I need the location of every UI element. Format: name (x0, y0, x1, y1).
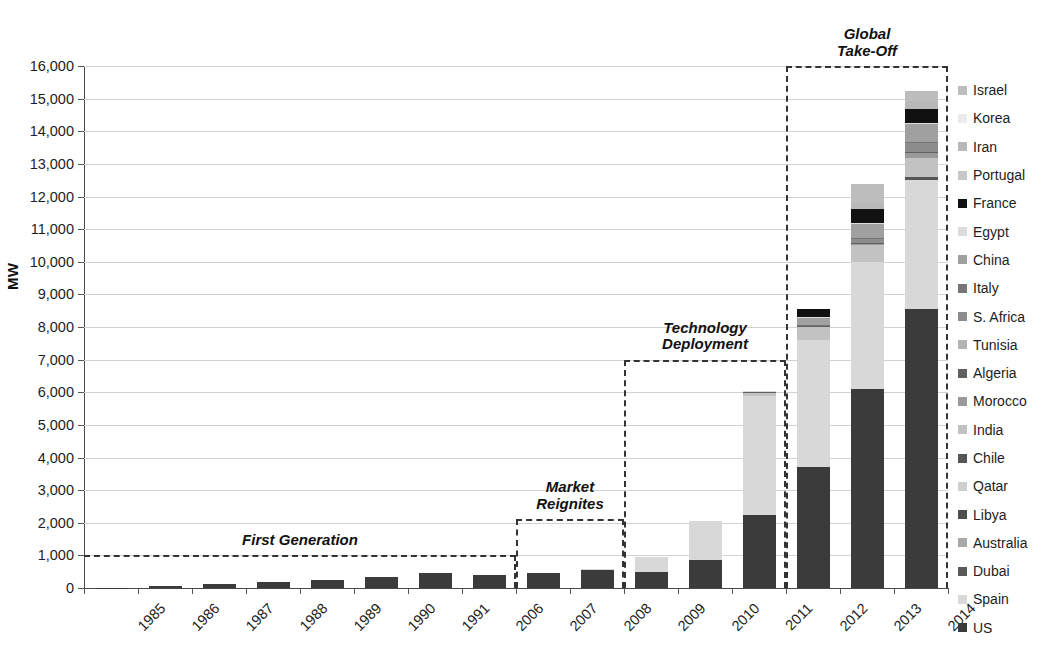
legend-item[interactable]: Australia (958, 529, 1050, 557)
stacked-bar-chart: MW 01,0002,0003,0004,0005,0006,0007,0008… (0, 0, 1050, 645)
bar-group[interactable] (473, 66, 506, 588)
legend-item[interactable]: Morocco (958, 387, 1050, 415)
legend-item[interactable]: Spain (958, 585, 1050, 613)
legend-label: Algeria (973, 366, 1017, 380)
bar-segment[interactable] (797, 318, 830, 326)
bar-segment[interactable] (581, 569, 614, 570)
legend-label: Egypt (973, 225, 1009, 239)
legend-item[interactable]: Italy (958, 274, 1050, 302)
bar-group[interactable] (311, 66, 344, 588)
legend-item[interactable]: Egypt (958, 217, 1050, 245)
legend-label: Australia (973, 536, 1027, 550)
bar-segment[interactable] (797, 309, 830, 317)
legend-swatch-icon (958, 369, 967, 378)
legend-item[interactable]: Libya (958, 500, 1050, 528)
bar-segment[interactable] (905, 123, 938, 124)
phase-label-first-generation: First Generation (84, 532, 516, 549)
bar-segment[interactable] (743, 391, 776, 392)
bar-segment[interactable] (905, 152, 938, 158)
bar-segment[interactable] (905, 109, 938, 123)
legend-item[interactable]: Iran (958, 133, 1050, 161)
legend-item[interactable]: France (958, 189, 1050, 217)
bar-group[interactable] (149, 66, 182, 588)
bar-segment[interactable] (689, 521, 722, 559)
bar-segment[interactable] (851, 238, 884, 239)
bar-segment[interactable] (905, 124, 938, 142)
bar-segment[interactable] (851, 209, 884, 223)
x-tick-mark (732, 588, 733, 594)
bar-segment[interactable] (851, 223, 884, 224)
legend-item[interactable]: Korea (958, 104, 1050, 132)
bar-segment[interactable] (797, 467, 830, 588)
legend-item[interactable]: Israel (958, 76, 1050, 104)
bar-segment[interactable] (797, 327, 830, 340)
bar-segment[interactable] (851, 245, 884, 262)
bar-segment[interactable] (905, 91, 938, 101)
legend-item[interactable]: Portugal (958, 161, 1050, 189)
bar-segment[interactable] (851, 262, 884, 389)
bar-segment[interactable] (203, 584, 236, 588)
bar-segment[interactable] (797, 340, 830, 467)
x-tick-mark (138, 588, 139, 594)
bar-segment[interactable] (905, 142, 938, 143)
bar-segment[interactable] (365, 577, 398, 588)
legend-label: Qatar (973, 479, 1008, 493)
legend-swatch-icon (958, 340, 967, 349)
legend-swatch-icon (958, 454, 967, 463)
bar-segment[interactable] (743, 393, 776, 395)
bar-group[interactable] (203, 66, 236, 588)
bar-group[interactable] (95, 66, 128, 588)
bar-segment[interactable] (419, 573, 452, 588)
bar-segment[interactable] (851, 243, 884, 244)
legend-swatch-icon (958, 312, 967, 321)
legend-swatch-icon (958, 227, 967, 236)
bar-segment[interactable] (905, 152, 938, 153)
bar-segment[interactable] (95, 588, 128, 589)
bar-segment[interactable] (527, 573, 560, 588)
bar-segment[interactable] (473, 575, 506, 588)
bar-group[interactable] (797, 66, 830, 588)
bar-segment[interactable] (905, 309, 938, 588)
bar-segment[interactable] (581, 570, 614, 588)
bar-segment[interactable] (635, 557, 668, 572)
bar-segment[interactable] (905, 158, 938, 176)
legend-item[interactable]: Qatar (958, 472, 1050, 500)
legend-item[interactable]: Chile (958, 444, 1050, 472)
bar-segment[interactable] (905, 180, 938, 309)
bar-segment[interactable] (851, 184, 884, 202)
legend-item[interactable]: S. Africa (958, 302, 1050, 330)
bar-segment[interactable] (257, 582, 290, 588)
bar-segment[interactable] (851, 202, 884, 209)
bar-segment[interactable] (797, 325, 830, 326)
bar-group[interactable] (257, 66, 290, 588)
x-tick-mark (516, 588, 517, 594)
bar-segment[interactable] (743, 515, 776, 588)
bar-segment[interactable] (851, 389, 884, 588)
legend-label: Tunisia (973, 338, 1018, 352)
bar-group[interactable] (419, 66, 452, 588)
bar-segment[interactable] (149, 586, 182, 588)
bar-segment[interactable] (905, 177, 938, 181)
x-tick-mark (624, 588, 625, 594)
bar-segment[interactable] (905, 101, 938, 109)
bar-segment[interactable] (311, 580, 344, 588)
bar-segment[interactable] (851, 223, 884, 238)
legend-item[interactable]: India (958, 416, 1050, 444)
legend-item[interactable]: Tunisia (958, 331, 1050, 359)
bar-group[interactable] (851, 66, 884, 588)
bar-segment[interactable] (743, 396, 776, 515)
legend-item[interactable]: Dubai (958, 557, 1050, 585)
x-tick-mark (678, 588, 679, 594)
bar-segment[interactable] (797, 317, 830, 318)
x-tick-mark (840, 588, 841, 594)
legend-item[interactable]: US (958, 614, 1050, 642)
legend-item[interactable]: China (958, 246, 1050, 274)
bar-group[interactable] (905, 66, 938, 588)
x-tick-mark (408, 588, 409, 594)
legend-swatch-icon (958, 595, 967, 604)
legend-item[interactable]: Algeria (958, 359, 1050, 387)
bar-segment[interactable] (635, 572, 668, 588)
bar-segment[interactable] (905, 142, 938, 152)
bar-group[interactable] (365, 66, 398, 588)
bar-segment[interactable] (689, 560, 722, 588)
